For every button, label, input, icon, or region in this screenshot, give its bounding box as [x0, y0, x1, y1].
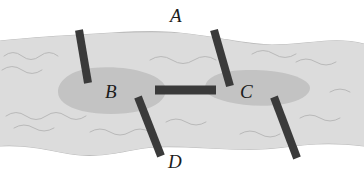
label-a: A [170, 6, 182, 25]
river-diagram-canvas [0, 0, 364, 182]
label-b: B [105, 82, 117, 101]
label-d: D [168, 152, 182, 171]
label-c: C [240, 82, 253, 101]
river-diagram-figure: A B C D [0, 0, 364, 182]
